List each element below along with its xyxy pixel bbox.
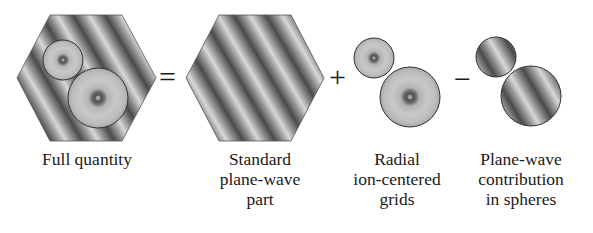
radial-grids-label: Radial ion-centered grids [343, 149, 451, 209]
label-line: Standard [195, 149, 325, 169]
label-line: plane-wave [195, 169, 325, 189]
label-line: grids [343, 189, 451, 209]
label-line: Radial [343, 149, 451, 169]
label-line: part [195, 189, 325, 209]
plus-operator: + [329, 62, 346, 92]
plane-wave-spheres-figure [476, 37, 561, 126]
label-line: in spheres [465, 189, 577, 209]
plane-wave-spheres-label: Plane-wave contribution in spheres [465, 149, 577, 209]
full-quantity-label: Full quantity [17, 149, 157, 169]
plane-wave-hexagon [186, 15, 324, 141]
full-large-sphere [68, 68, 128, 128]
pw-small-sphere [476, 37, 516, 77]
label-line: contribution [465, 169, 577, 189]
label-line: Full quantity [17, 149, 157, 169]
label-line: ion-centered [343, 169, 451, 189]
full-quantity-figure [17, 15, 156, 141]
equals-operator: = [159, 62, 176, 92]
radial-grids-figure [354, 38, 440, 127]
radial-small-sphere [354, 38, 394, 78]
label-line: Plane-wave [465, 149, 577, 169]
full-small-sphere [43, 40, 83, 80]
plane-wave-label: Standard plane-wave part [195, 149, 325, 209]
minus-operator: − [454, 64, 471, 94]
pw-large-sphere [501, 66, 561, 126]
plane-wave-figure [186, 15, 324, 141]
radial-large-sphere [380, 67, 440, 127]
